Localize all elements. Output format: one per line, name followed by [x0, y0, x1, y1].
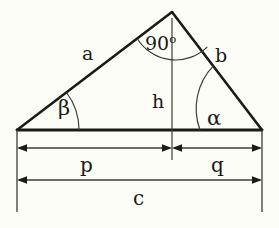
arrowhead-p-left	[17, 144, 27, 152]
label-side-a: a	[82, 44, 93, 63]
geometry-diagram: a b 90o β α h p q c	[0, 0, 279, 228]
label-angle-alpha: α	[207, 108, 221, 129]
label-side-b: b	[215, 46, 227, 65]
label-segment-p: p	[80, 155, 93, 175]
arrowhead-p-right	[162, 144, 172, 152]
arrowhead-q-right	[252, 144, 262, 152]
label-right-angle-value: 90	[145, 32, 169, 54]
label-hypotenuse-c: c	[133, 188, 144, 208]
arrowhead-c-left	[17, 176, 27, 184]
label-angle-beta: β	[58, 98, 70, 119]
arrowhead-q-left	[172, 144, 182, 152]
arrowhead-c-right	[252, 176, 262, 184]
label-right-angle-unit: o	[169, 32, 176, 46]
label-right-angle: 90o	[145, 34, 176, 53]
label-altitude-h: h	[152, 92, 164, 111]
label-segment-q: q	[211, 155, 224, 175]
triangle-side-a-line	[17, 12, 172, 130]
